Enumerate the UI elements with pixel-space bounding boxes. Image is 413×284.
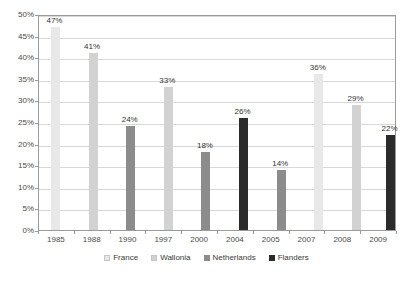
x-axis-tick-mark: [181, 231, 182, 234]
bar[interactable]: [314, 74, 323, 230]
bar-value-label: 24%: [115, 116, 145, 124]
gridline: [39, 16, 395, 17]
bar[interactable]: [277, 170, 286, 230]
bar-value-label: 14%: [265, 160, 295, 168]
bar[interactable]: [89, 53, 98, 230]
bar[interactable]: [386, 135, 395, 230]
x-axis-tick-mark: [145, 231, 146, 234]
bar[interactable]: [126, 126, 135, 230]
bar-value-label: 33%: [152, 77, 182, 85]
legend-item-wallonia[interactable]: Wallonia: [151, 254, 190, 262]
y-axis-tick-label: 5%: [0, 205, 34, 213]
bar-value-label: 22%: [375, 125, 405, 133]
x-axis-tick-mark: [74, 231, 75, 234]
x-axis-tick-label: 2009: [358, 236, 398, 244]
gridline: [39, 38, 395, 39]
y-axis-tick-label: 30%: [0, 97, 34, 105]
x-axis-tick-mark: [253, 231, 254, 234]
legend-swatch-icon: [104, 255, 110, 261]
legend-label: Wallonia: [160, 254, 190, 262]
legend-item-france[interactable]: France: [104, 254, 138, 262]
legend-label: France: [113, 254, 138, 262]
bar[interactable]: [239, 118, 248, 230]
bar-value-label: 29%: [341, 95, 371, 103]
x-axis-tick-label: 2004: [215, 236, 255, 244]
legend-label: Flanders: [278, 254, 309, 262]
y-axis-tick-label: 0%: [0, 227, 34, 235]
x-axis-tick-mark: [360, 231, 361, 234]
x-axis-tick-label: 2008: [322, 236, 362, 244]
legend-label: Netherlands: [213, 254, 256, 262]
bar[interactable]: [51, 27, 60, 230]
x-axis-tick-mark: [110, 231, 111, 234]
x-axis-tick-label: 1990: [108, 236, 148, 244]
bar-value-label: 36%: [303, 64, 333, 72]
y-axis-tick-label: 50%: [0, 11, 34, 19]
legend-item-flanders[interactable]: Flanders: [269, 254, 309, 262]
y-axis-tick-label: 15%: [0, 162, 34, 170]
legend-swatch-icon: [204, 255, 210, 261]
y-axis-tick-label: 10%: [0, 184, 34, 192]
x-axis-tick-label: 1997: [143, 236, 183, 244]
bar[interactable]: [201, 152, 210, 230]
bar-chart: 0%5%10%15%20%25%30%35%40%45%50% 19851988…: [0, 0, 413, 284]
legend-item-netherlands[interactable]: Netherlands: [204, 254, 256, 262]
x-axis-tick-mark: [38, 231, 39, 234]
y-axis-tick-label: 25%: [0, 119, 34, 127]
x-axis-tick-label: 2000: [179, 236, 219, 244]
x-axis-tick-label: 2007: [287, 236, 327, 244]
legend-swatch-icon: [269, 255, 275, 261]
bar-value-label: 47%: [39, 17, 69, 25]
bar-value-label: 26%: [228, 108, 258, 116]
x-axis-tick-label: 2005: [251, 236, 291, 244]
x-axis-tick-label: 1985: [36, 236, 76, 244]
y-axis-tick-label: 40%: [0, 54, 34, 62]
bar-value-label: 18%: [190, 142, 220, 150]
x-axis-tick-mark: [289, 231, 290, 234]
x-axis-tick-mark: [217, 231, 218, 234]
legend-swatch-icon: [151, 255, 157, 261]
bar-value-label: 41%: [77, 43, 107, 51]
y-axis-tick-label: 20%: [0, 141, 34, 149]
x-axis-tick-mark: [324, 231, 325, 234]
y-axis-tick-label: 45%: [0, 33, 34, 41]
chart-legend: FranceWalloniaNetherlandsFlanders: [0, 254, 413, 262]
bar[interactable]: [164, 87, 173, 230]
x-axis-tick-label: 1988: [72, 236, 112, 244]
y-axis-tick-label: 35%: [0, 76, 34, 84]
bar[interactable]: [352, 105, 361, 230]
x-axis-tick-mark: [396, 231, 397, 234]
